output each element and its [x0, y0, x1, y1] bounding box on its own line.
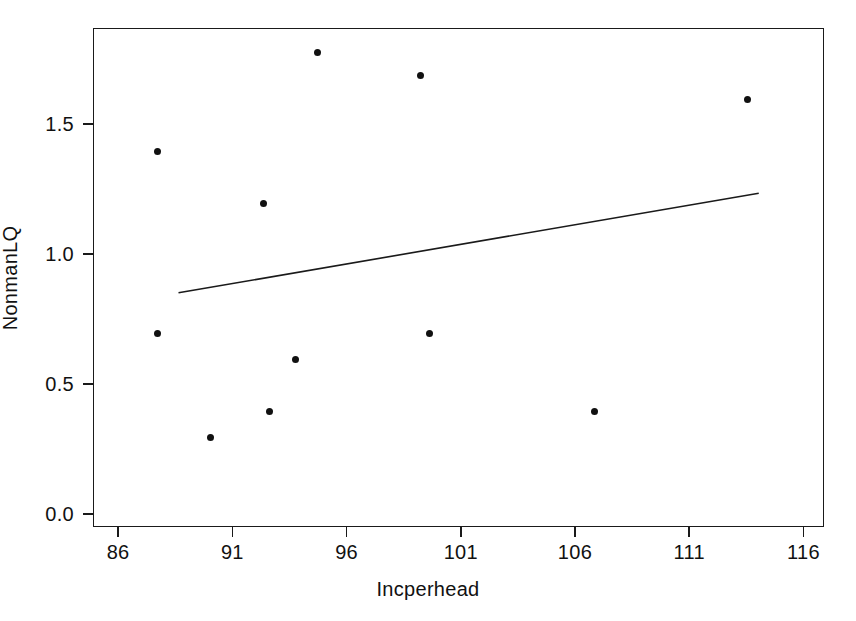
- y-axis-label: NonmanLQ: [0, 226, 22, 331]
- scatter-plot-figure: NonmanLQ 0.00.51.01.5 869196101106111116…: [0, 0, 856, 621]
- y-axis-tick-label: 0.5: [45, 373, 74, 396]
- data-point: [207, 434, 214, 441]
- y-axis-tick: [83, 253, 93, 255]
- x-axis-tick-label: 86: [107, 541, 130, 564]
- data-point: [266, 408, 273, 415]
- x-axis-tick: [803, 527, 805, 537]
- y-axis-tick: [83, 123, 93, 125]
- x-axis-tick-label: 91: [221, 541, 244, 564]
- y-axis-tick-label: 1.0: [45, 243, 74, 266]
- x-axis-tick: [574, 527, 576, 537]
- data-point: [426, 330, 433, 337]
- x-axis-tick-label: 96: [335, 541, 358, 564]
- y-axis-tick: [83, 383, 93, 385]
- x-axis-tick-label: 106: [558, 541, 592, 564]
- x-axis-tick: [232, 527, 234, 537]
- x-axis-tick: [117, 527, 119, 537]
- y-axis-tick: [83, 513, 93, 515]
- x-axis-tick: [460, 527, 462, 537]
- plot-area: [94, 29, 823, 526]
- y-axis-tick-label: 0.0: [45, 503, 74, 526]
- plot-frame: [93, 28, 824, 527]
- data-point: [260, 200, 267, 207]
- data-point: [591, 408, 598, 415]
- y-axis-tick-label: 1.5: [45, 113, 74, 136]
- regression-line: [94, 29, 823, 526]
- x-axis-label: Incperhead: [0, 578, 856, 601]
- data-point: [292, 356, 299, 363]
- x-axis-tick: [688, 527, 690, 537]
- data-point: [744, 96, 751, 103]
- x-axis-tick: [346, 527, 348, 537]
- x-axis-tick-label: 116: [787, 541, 820, 564]
- x-axis-tick-label: 111: [674, 541, 705, 564]
- x-axis-tick-label: 101: [444, 541, 478, 564]
